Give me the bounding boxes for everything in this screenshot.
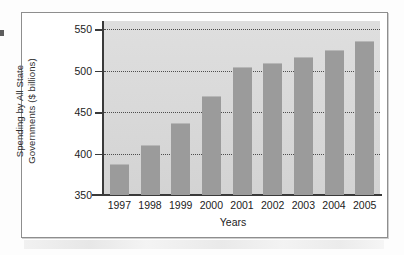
scan-edge-artifact [0, 30, 4, 36]
y-axis-tick-label: 550 [60, 23, 92, 35]
bar-series [104, 21, 380, 195]
bar [141, 145, 160, 195]
plot-area: 350400450500550 199719981999200020012002… [86, 21, 380, 203]
bar [202, 96, 221, 195]
x-axis-tick-labels: 199719981999200020012002200320042005 [104, 199, 380, 213]
bar [355, 41, 374, 195]
y-axis-tick-label: 450 [60, 106, 92, 118]
chart-figure-frame: Spending by All State Governments ($ bil… [21, 12, 388, 238]
bar [325, 50, 344, 195]
y-axis-tick-label: 400 [60, 148, 92, 160]
y-axis-tick-label: 500 [60, 65, 92, 77]
scan-bottom-artifact [24, 240, 384, 249]
bar [110, 164, 129, 195]
bar [294, 57, 313, 195]
y-axis-title-line-2: Governments ($ billions) [26, 31, 38, 191]
y-axis-title-line-1: Spending by All State [14, 31, 26, 191]
bar [233, 67, 252, 195]
x-axis-tick-label: 2005 [345, 199, 385, 211]
bar [263, 63, 282, 195]
y-axis-tick-label: 350 [60, 189, 92, 201]
y-axis-title: Spending by All State Governments ($ bil… [14, 31, 44, 191]
x-axis-title: Years [86, 216, 380, 228]
page-root: Spending by All State Governments ($ bil… [0, 0, 404, 255]
bar [171, 123, 190, 195]
